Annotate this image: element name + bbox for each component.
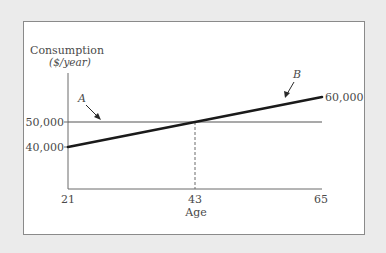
end-value-label-60000: 60,000 xyxy=(325,91,364,104)
y-tick-label-50000: 50,000 xyxy=(26,116,65,129)
y-tick-label-40000: 40,000 xyxy=(26,141,65,154)
x-tick-label-21: 21 xyxy=(61,193,75,206)
consumption-age-chart: Consumption ($/year) 50,000 40,000 21 43… xyxy=(0,0,386,253)
y-axis-units: ($/year) xyxy=(49,56,91,68)
arrow-a-icon xyxy=(86,105,101,120)
series-b-label: B xyxy=(292,68,301,81)
series-a-label: A xyxy=(77,92,86,105)
x-tick-label-65: 65 xyxy=(314,193,328,206)
arrow-b-icon xyxy=(284,82,294,98)
x-axis-title: Age xyxy=(184,206,207,219)
x-tick-label-43: 43 xyxy=(188,193,202,206)
